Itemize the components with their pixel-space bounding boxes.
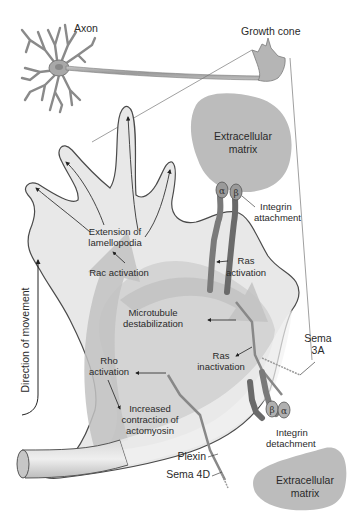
sema3a-label-line1: Sema <box>304 332 332 344</box>
contraction-label-line2: contraction of <box>121 414 178 425</box>
microtubule-label-line2: destabilization <box>123 318 183 329</box>
ecm-bottom-label-line2: matrix <box>291 487 320 499</box>
extracellular-matrix-top: Extracellular matrix <box>191 93 292 192</box>
integrin-bottom-beta: β <box>269 405 274 415</box>
rho-activation-label-line2: activation <box>89 366 129 377</box>
axon-tube-end <box>17 450 29 478</box>
growth-cone-label: Growth cone <box>241 25 301 37</box>
axon-label: Axon <box>74 22 98 34</box>
integrin-top-alpha: α <box>219 186 225 196</box>
ecm-top-label-line1: Extracellular <box>214 130 272 142</box>
sema3a-label-line2: 3A <box>312 344 325 356</box>
integrin-detachment-label-line2: detachment <box>266 438 316 449</box>
contraction-label-line3: actomyosin <box>126 425 174 436</box>
rac-activation-label: Rac activation <box>89 267 149 278</box>
nucleus <box>55 64 63 70</box>
axon-tube <box>22 440 128 478</box>
extension-label-line2: lamellopodia <box>88 237 142 248</box>
ecm-top-label-line2: matrix <box>229 143 258 155</box>
axon-shaft <box>66 66 262 80</box>
direction-of-movement-indicator: Direction of movement <box>19 260 38 415</box>
zoom-line-right <box>290 58 312 360</box>
contraction-label-line1: Increased <box>129 403 171 414</box>
extracellular-matrix-bottom: Extracellular matrix <box>253 448 346 511</box>
direction-of-movement-label: Direction of movement <box>19 287 31 392</box>
extension-label-line1: Extension of <box>89 226 142 237</box>
integrin-attachment-label-line1: Integrin <box>260 201 292 212</box>
sema4d-label: Sema 4D <box>166 468 210 480</box>
ras-inactivation-label-line2: inactivation <box>197 361 245 372</box>
ecm-bottom-label-line1: Extracellular <box>276 474 334 486</box>
ras-activation-label-line1: Ras <box>238 255 255 266</box>
ras-activation-label-line2: activation <box>226 267 266 278</box>
ras-inactivation-label-line1: Ras <box>213 350 230 361</box>
plexin-label: Plexin <box>177 450 206 462</box>
microtubule-label-line1: Microtubule <box>128 307 177 318</box>
integrin-top-beta: β <box>233 188 238 198</box>
rho-activation-label-line1: Rho <box>100 355 117 366</box>
integrin-attachment-label-line2: attachment <box>254 212 301 223</box>
integrin-detachment-label-line1: Integrin <box>276 427 308 438</box>
growth-cone-diagram: Axon Growth cone Extracellular matrix α … <box>0 0 354 523</box>
integrin-bottom-alpha: α <box>281 406 287 416</box>
growth-cone-small <box>252 38 285 81</box>
